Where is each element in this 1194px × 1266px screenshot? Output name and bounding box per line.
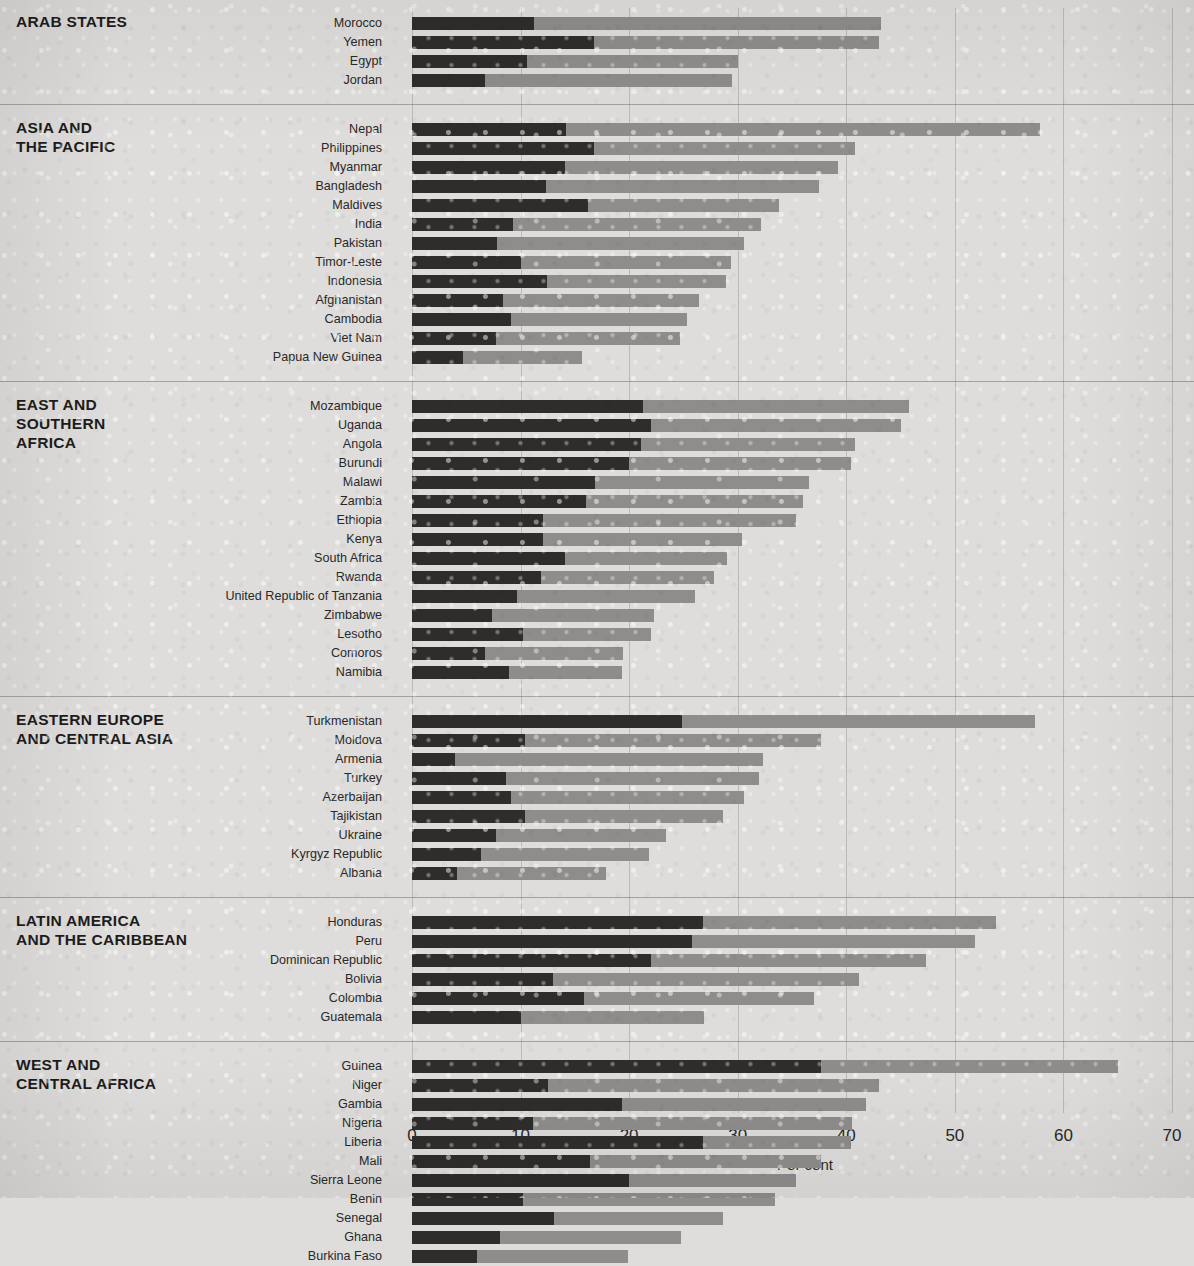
bar-segment-light[interactable] (565, 161, 838, 174)
bar-segment-dark[interactable] (412, 332, 496, 345)
chart-row[interactable]: Jordan (0, 71, 1194, 90)
bar-segment-light[interactable] (543, 533, 742, 546)
bar-segment-dark[interactable] (412, 180, 546, 193)
bar-segment-light[interactable] (521, 256, 732, 269)
bar-segment-light[interactable] (485, 74, 733, 87)
bar-segment-light[interactable] (546, 180, 820, 193)
chart-row[interactable]: Senegal (0, 1209, 1194, 1228)
bar-segment-light[interactable] (477, 1250, 628, 1263)
bar-segment-dark[interactable] (412, 161, 565, 174)
chart-row[interactable]: Malawi (0, 473, 1194, 492)
bar-segment-light[interactable] (641, 438, 855, 451)
bar-segment-dark[interactable] (412, 495, 586, 508)
chart-row[interactable]: Armenia (0, 750, 1194, 769)
bar-segment-light[interactable] (463, 351, 582, 364)
chart-row[interactable]: Guatemala (0, 1008, 1194, 1027)
bar-segment-dark[interactable] (412, 734, 525, 747)
bar-segment-light[interactable] (554, 1212, 722, 1225)
bar-segment-light[interactable] (533, 1117, 852, 1130)
bar-segment-light[interactable] (534, 17, 881, 30)
bar-segment-light[interactable] (485, 647, 623, 660)
chart-row[interactable]: Ukraine (0, 826, 1194, 845)
bar-segment-light[interactable] (553, 973, 859, 986)
bar-segment-light[interactable] (703, 916, 996, 929)
bar-segment-light[interactable] (496, 829, 666, 842)
bar-segment-dark[interactable] (412, 973, 553, 986)
bar-segment-dark[interactable] (412, 514, 543, 527)
chart-row[interactable]: Nepal (0, 120, 1194, 139)
chart-row[interactable]: Ghana (0, 1228, 1194, 1247)
chart-row[interactable]: Nigeria (0, 1114, 1194, 1133)
bar-segment-dark[interactable] (412, 954, 651, 967)
chart-row[interactable]: Liberia (0, 1133, 1194, 1152)
bar-segment-light[interactable] (590, 1155, 821, 1168)
bar-segment-light[interactable] (523, 1193, 775, 1206)
bar-segment-light[interactable] (517, 590, 695, 603)
chart-row[interactable]: Angola (0, 435, 1194, 454)
bar-segment-dark[interactable] (412, 571, 541, 584)
chart-row[interactable]: Uganda (0, 416, 1194, 435)
bar-segment-dark[interactable] (412, 218, 513, 231)
bar-segment-light[interactable] (455, 753, 762, 766)
bar-segment-light[interactable] (521, 1011, 704, 1024)
chart-row[interactable]: Burundi (0, 454, 1194, 473)
bar-segment-light[interactable] (496, 332, 681, 345)
bar-segment-dark[interactable] (412, 438, 641, 451)
chart-row[interactable]: Moldova (0, 731, 1194, 750)
bar-segment-dark[interactable] (412, 1193, 523, 1206)
bar-segment-light[interactable] (527, 55, 738, 68)
bar-segment-light[interactable] (565, 552, 727, 565)
chart-row[interactable]: Philippines (0, 139, 1194, 158)
chart-row[interactable]: Kenya (0, 530, 1194, 549)
chart-row[interactable]: Guinea (0, 1057, 1194, 1076)
bar-segment-light[interactable] (622, 1098, 866, 1111)
bar-segment-dark[interactable] (412, 1079, 548, 1092)
bar-segment-light[interactable] (594, 36, 878, 49)
bar-segment-dark[interactable] (412, 1136, 703, 1149)
chart-row[interactable]: Cambodia (0, 310, 1194, 329)
bar-segment-light[interactable] (703, 1136, 851, 1149)
bar-segment-dark[interactable] (412, 400, 643, 413)
chart-row[interactable]: Honduras (0, 913, 1194, 932)
bar-segment-dark[interactable] (412, 628, 523, 641)
bar-segment-light[interactable] (500, 1231, 681, 1244)
chart-row[interactable]: Bolivia (0, 970, 1194, 989)
bar-segment-dark[interactable] (412, 715, 682, 728)
bar-segment-dark[interactable] (412, 256, 521, 269)
chart-row[interactable]: Lesotho (0, 625, 1194, 644)
bar-segment-dark[interactable] (412, 1212, 554, 1225)
bar-segment-light[interactable] (821, 1060, 1117, 1073)
chart-row[interactable]: Ethiopia (0, 511, 1194, 530)
chart-row[interactable]: Albania (0, 864, 1194, 883)
bar-segment-dark[interactable] (412, 142, 594, 155)
bar-segment-dark[interactable] (412, 867, 457, 880)
bar-segment-light[interactable] (543, 514, 796, 527)
chart-row[interactable]: United Republic of Tanzania (0, 587, 1194, 606)
bar-segment-dark[interactable] (412, 791, 511, 804)
bar-segment-light[interactable] (547, 275, 726, 288)
bar-segment-light[interactable] (629, 457, 850, 470)
bar-segment-dark[interactable] (412, 55, 527, 68)
bar-segment-dark[interactable] (412, 1174, 629, 1187)
bar-segment-dark[interactable] (412, 275, 547, 288)
bar-segment-light[interactable] (595, 476, 809, 489)
bar-segment-light[interactable] (523, 628, 651, 641)
bar-segment-light[interactable] (541, 571, 714, 584)
bar-segment-dark[interactable] (412, 810, 525, 823)
bar-segment-light[interactable] (629, 1174, 796, 1187)
bar-segment-light[interactable] (548, 1079, 879, 1092)
bar-segment-dark[interactable] (412, 1250, 477, 1263)
bar-segment-light[interactable] (682, 715, 1035, 728)
chart-row[interactable]: Pakistan (0, 234, 1194, 253)
chart-row[interactable]: Kyrgyz Republic (0, 845, 1194, 864)
chart-row[interactable]: Burkina Faso (0, 1247, 1194, 1266)
bar-segment-dark[interactable] (412, 533, 543, 546)
chart-row[interactable]: Zimbabwe (0, 606, 1194, 625)
bar-segment-dark[interactable] (412, 552, 565, 565)
chart-row[interactable]: Namibia (0, 663, 1194, 682)
bar-segment-dark[interactable] (412, 74, 485, 87)
chart-row[interactable]: Maldives (0, 196, 1194, 215)
bar-segment-light[interactable] (457, 867, 607, 880)
bar-segment-light[interactable] (566, 123, 1039, 136)
chart-row[interactable]: Timor-Leste (0, 253, 1194, 272)
